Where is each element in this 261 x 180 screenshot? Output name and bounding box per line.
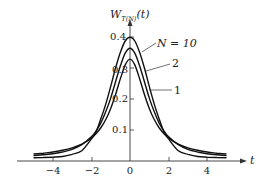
- series-label-n10: N = 10: [156, 37, 197, 50]
- y-tick-label: 0.3: [112, 64, 128, 75]
- x-tick-label: −2: [85, 165, 100, 176]
- x-axis-arrow-icon: [240, 159, 247, 164]
- x-tick-label: 2: [166, 165, 172, 176]
- x-tick-label: 4: [204, 165, 210, 176]
- y-tick-label: 0.2: [112, 93, 128, 104]
- series-label-n1: 1: [174, 84, 181, 97]
- leader-line-n10: [142, 43, 156, 52]
- x-tick-label: −4: [46, 165, 61, 176]
- y-label-sub: T(N): [121, 15, 137, 23]
- x-axis-label: t: [250, 154, 255, 167]
- student-t-density-chart: −4 −2 0 2 4 0.1 0.2 0.3 0.4 WT(N)(t) t N…: [0, 0, 261, 180]
- y-label-arg: (t): [136, 8, 149, 21]
- y-tick-label: 0.4: [110, 31, 126, 42]
- series-label-n2: 2: [172, 57, 179, 70]
- y-axis-label: WT(N)(t): [110, 8, 149, 23]
- leader-line-n2: [146, 64, 170, 71]
- y-tick-label: 0.1: [112, 124, 128, 135]
- x-tick-label: 0: [127, 165, 133, 176]
